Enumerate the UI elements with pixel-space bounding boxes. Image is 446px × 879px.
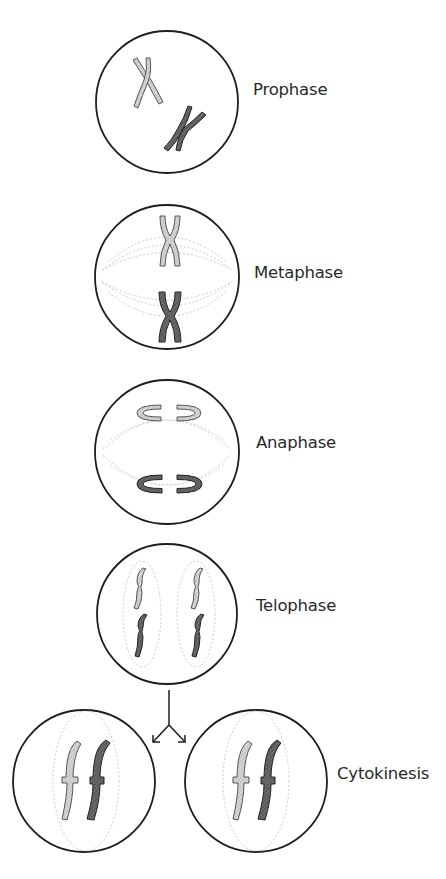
anaphase-cell <box>95 380 239 524</box>
telophase-cell <box>97 544 237 684</box>
mitosis-diagram <box>0 0 446 879</box>
stage-label-prophase: Prophase <box>253 80 327 99</box>
cytokinesis-cell-right <box>185 710 327 852</box>
stage-label-telophase: Telophase <box>256 596 336 615</box>
prophase-cell <box>96 31 238 173</box>
split-arrow-icon <box>153 690 185 742</box>
stage-label-metaphase: Metaphase <box>254 263 343 282</box>
cytokinesis-cell-left <box>13 710 155 852</box>
stage-label-cytokinesis: Cytokinesis <box>337 764 429 783</box>
stage-label-anaphase: Anaphase <box>256 433 336 452</box>
metaphase-cell <box>95 205 239 349</box>
